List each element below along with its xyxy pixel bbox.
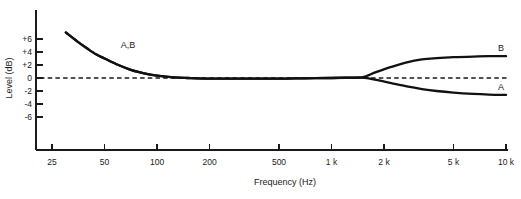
series-annotations: A,BBA (121, 40, 504, 92)
x-tick-label-8: 10 k (498, 157, 515, 167)
x-tick-label-2: 100 (150, 157, 164, 167)
series-label-B: B (498, 43, 504, 53)
y-tick-label-5: -4 (24, 99, 32, 109)
x-tick-label-4: 500 (272, 157, 286, 167)
x-axis-title: Frequency (Hz) (254, 177, 316, 187)
frequency-response-figure: 25501002005001 k2 k5 k10 k +6+4+20-2-4-6… (0, 0, 521, 199)
y-tick-label-6: -6 (24, 112, 32, 122)
x-axis-tick-labels: 25501002005001 k2 k5 k10 k (47, 157, 515, 167)
series-label-A-B: A,B (121, 40, 136, 50)
series-label-A: A (498, 82, 504, 92)
y-axis-tick-labels: +6+4+20-2-4-6 (22, 34, 32, 122)
x-tick-label-7: 5 k (448, 157, 460, 167)
x-tick-label-6: 2 k (378, 157, 390, 167)
x-tick-label-0: 25 (47, 157, 57, 167)
frequency-response-chart: 25501002005001 k2 k5 k10 k +6+4+20-2-4-6… (0, 0, 521, 199)
chart-tick-marks (36, 39, 506, 150)
x-tick-label-1: 50 (100, 157, 110, 167)
chart-axes (36, 10, 508, 150)
y-tick-label-1: +4 (22, 47, 32, 57)
y-axis-title: Level (dB) (4, 57, 14, 98)
y-tick-label-0: +6 (22, 34, 32, 44)
y-tick-label-2: +2 (22, 60, 32, 70)
x-tick-label-5: 1 k (326, 157, 338, 167)
y-tick-label-3: 0 (27, 73, 32, 83)
x-tick-label-3: 200 (202, 157, 216, 167)
y-tick-label-4: -2 (24, 86, 32, 96)
